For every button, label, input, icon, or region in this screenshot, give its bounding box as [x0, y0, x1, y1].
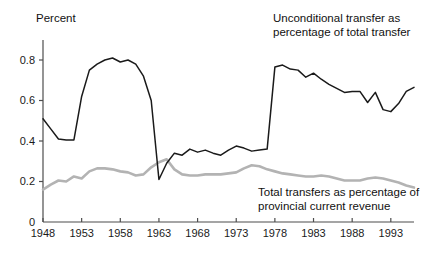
y-axis: 00.20.40.60.8	[20, 40, 43, 228]
x-tick-label: 1978	[263, 227, 287, 239]
x-tick-label: 1983	[301, 227, 325, 239]
x-tick-label: 1953	[69, 227, 93, 239]
series-line-unconditional-transfer	[43, 58, 414, 180]
x-tick-label: 1948	[31, 227, 55, 239]
x-tick-label: 1973	[224, 227, 248, 239]
total-transfers-label-line-2: provincial current revenue	[258, 200, 390, 212]
x-tick-label: 1958	[108, 227, 132, 239]
x-tick-label: 1988	[340, 227, 364, 239]
y-tick-label: 0.2	[20, 175, 35, 187]
unconditional-transfer-label-line-1: Unconditional transfer as	[273, 12, 400, 24]
x-axis: 1948195319581963196819731978198319881993	[31, 218, 414, 239]
x-tick-group: 1948195319581963196819731978198319881993	[31, 218, 403, 239]
y-tick-label: 0.6	[20, 94, 35, 106]
unconditional-transfer-label-line-2: percentage of total transfer	[273, 26, 411, 38]
x-tick-label: 1963	[147, 227, 171, 239]
x-tick-label: 1993	[379, 227, 403, 239]
total-transfers-label-line-1: Total transfers as percentage of	[258, 186, 420, 198]
y-tick-label: 0.4	[20, 135, 35, 147]
chart-container: Percent 00.20.40.60.8 194819531958196319…	[0, 0, 436, 256]
y-tick-label: 0.8	[20, 54, 35, 66]
y-tick-group: 00.20.40.60.8	[20, 54, 43, 228]
line-chart: Percent 00.20.40.60.8 194819531958196319…	[0, 0, 436, 256]
x-tick-label: 1968	[185, 227, 209, 239]
y-axis-title: Percent	[36, 12, 76, 24]
series-group	[43, 58, 414, 190]
